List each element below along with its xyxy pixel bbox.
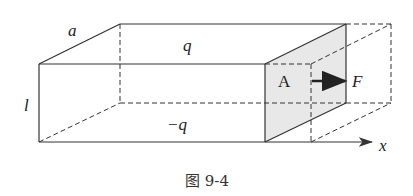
label-minus-q: −q [167,115,187,134]
label-axis-x: x [378,136,387,155]
label-a: a [68,21,77,40]
capacitor-box-diagram: a q l −q A F x 图 9-4 [0,0,413,196]
label-area-a: A [278,72,291,91]
label-l: l [24,96,29,115]
label-force-f: F [351,72,363,91]
figure-caption: 图 9-4 [185,172,229,190]
label-q-top: q [183,36,192,55]
